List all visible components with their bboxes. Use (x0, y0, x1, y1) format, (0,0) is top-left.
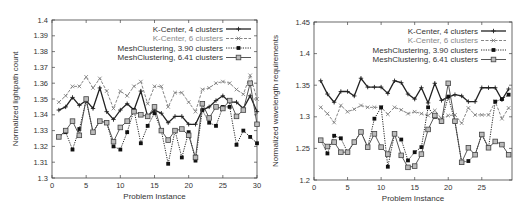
data-point (399, 153, 404, 158)
data-point (236, 55, 241, 60)
y-axis-label: Normalized wavelength requirements (271, 35, 280, 167)
data-point (235, 143, 239, 147)
data-point (91, 86, 95, 90)
x-tick-label: 0 (50, 181, 54, 190)
data-point (459, 160, 464, 165)
data-point (207, 116, 212, 121)
x-tick-label: 20 (444, 183, 452, 192)
data-point (372, 132, 377, 137)
data-point (480, 86, 484, 90)
data-point (372, 85, 376, 89)
data-point (255, 122, 260, 127)
y-tick-label: 1.32 (33, 142, 48, 151)
x-axis-label: Problem Instance (382, 194, 445, 203)
y-tick-label: 1.31 (33, 158, 48, 167)
data-point (399, 138, 403, 142)
data-point (446, 81, 451, 86)
data-point (426, 127, 431, 132)
data-point (71, 148, 75, 152)
data-point (491, 29, 495, 33)
data-point (419, 152, 424, 157)
data-point (57, 108, 61, 112)
legend-label: K-Center, 4 clusters (153, 25, 223, 34)
data-point (112, 107, 116, 111)
data-point (326, 152, 330, 156)
legend-entry: MeshClustering, 6.41 clusters (118, 53, 251, 62)
data-point (473, 152, 478, 157)
data-point (125, 130, 129, 134)
data-point (146, 102, 150, 106)
data-point (492, 48, 496, 52)
data-point (237, 46, 241, 50)
series-k-center-6-clusters (319, 100, 511, 125)
data-point (373, 117, 377, 121)
data-point (139, 141, 143, 145)
y-tick-label: 1.37 (33, 63, 48, 72)
data-point (491, 57, 496, 62)
data-point (71, 85, 75, 89)
data-point (193, 122, 197, 126)
y-tick-label: 1.4 (38, 16, 48, 25)
y-axis-label: Normalized lightpath count (11, 51, 20, 146)
series-meshclustering-3-90-clusters (319, 93, 511, 169)
data-point (125, 94, 129, 98)
data-point (332, 134, 336, 138)
series-k-center-4-clusters (319, 76, 511, 105)
data-point (467, 106, 471, 110)
data-point (98, 77, 102, 81)
data-point (359, 130, 364, 135)
data-point (352, 107, 356, 111)
data-point (227, 98, 232, 103)
y-tick-label: 1.35 (33, 95, 48, 104)
data-point (98, 119, 103, 124)
data-point (242, 92, 246, 96)
data-point (493, 100, 497, 104)
x-tick-label: 5 (84, 181, 88, 190)
data-point (506, 152, 511, 157)
data-point (487, 113, 491, 117)
x-tick-label: 25 (478, 183, 486, 192)
series-line (321, 102, 509, 123)
right-chart-panel: 1.21.251.31.351.41.450510152025Problem I… (271, 18, 512, 204)
data-point (406, 159, 410, 163)
data-point (379, 105, 383, 109)
x-tick-label: 30 (253, 181, 261, 190)
data-point (500, 117, 504, 121)
legend-entry: K-Center, 4 clusters (153, 25, 251, 34)
data-point (386, 112, 390, 116)
data-point (139, 113, 144, 118)
data-point (78, 85, 82, 89)
legend-label: MeshClustering, 3.90 clusters (118, 44, 223, 53)
data-point (479, 132, 484, 137)
x-tick-label: 15 (150, 181, 158, 190)
data-point (339, 150, 344, 155)
left-chart-panel: 1.31.311.321.331.341.351.361.371.381.391… (11, 16, 261, 202)
data-point (433, 113, 438, 118)
y-tick-label: 1.3 (38, 174, 48, 183)
figure: 1.31.311.321.331.341.351.361.371.381.391… (0, 0, 516, 214)
data-point (507, 93, 511, 97)
data-point (453, 92, 457, 96)
data-point (98, 86, 102, 90)
data-point (235, 88, 239, 92)
data-point (241, 108, 246, 113)
data-point (214, 105, 219, 110)
x-tick-label: 25 (219, 181, 227, 190)
data-point (132, 109, 137, 114)
x-tick-label: 10 (116, 181, 124, 190)
data-point (433, 81, 437, 85)
series-line (321, 95, 509, 167)
data-point (180, 156, 184, 160)
data-point (63, 128, 68, 133)
data-point (77, 133, 82, 138)
legend-label: MeshClustering, 6.41 clusters (118, 53, 223, 62)
data-point (236, 27, 240, 31)
data-point (406, 165, 411, 170)
legend-entry: MeshClustering, 3.90 clusters (373, 46, 506, 55)
legend-label: K-Center, 4 clusters (408, 27, 478, 36)
y-tick-label: 1.38 (33, 47, 48, 56)
y-tick-label: 1.34 (33, 110, 48, 119)
data-point (57, 135, 62, 140)
data-point (187, 100, 191, 104)
series-line (59, 75, 257, 111)
